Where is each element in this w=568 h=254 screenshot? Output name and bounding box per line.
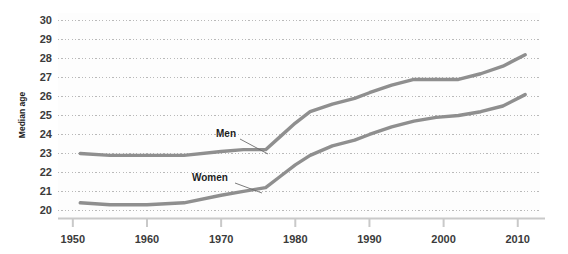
- x-tick-label: 2010: [506, 233, 530, 245]
- x-tick-label: 1960: [135, 233, 159, 245]
- y-tick-label: 27: [40, 71, 52, 83]
- series-label-women: Women: [192, 172, 228, 183]
- median-age-line-chart: 3029282726252423222120 19501960197019801…: [0, 0, 568, 254]
- x-tick-label: 1990: [357, 233, 381, 245]
- y-tick-label: 29: [40, 33, 52, 45]
- y-tick-label: 26: [40, 90, 52, 102]
- y-axis-tick-labels: 3029282726252423222120: [40, 14, 53, 216]
- x-tick-label: 1970: [209, 233, 233, 245]
- x-axis-tick-labels: 1950196019701980199020002010: [61, 233, 530, 245]
- y-tick-label: 22: [40, 166, 52, 178]
- y-tick-label: 30: [40, 14, 52, 26]
- chart-canvas: 3029282726252423222120 19501960197019801…: [0, 0, 568, 254]
- y-tick-label: 24: [40, 128, 53, 140]
- y-tick-label: 23: [40, 147, 52, 159]
- x-axis-tick-marks: [73, 219, 518, 227]
- y-tick-label: 20: [40, 204, 52, 216]
- y-tick-label: 28: [40, 52, 52, 64]
- x-tick-label: 2000: [431, 233, 455, 245]
- series-label-men: Men: [216, 128, 236, 139]
- x-tick-label: 1950: [61, 233, 85, 245]
- y-axis-title: Median age: [17, 92, 27, 139]
- y-tick-label: 25: [40, 109, 52, 121]
- x-tick-label: 1980: [283, 233, 307, 245]
- y-tick-label: 21: [40, 185, 52, 197]
